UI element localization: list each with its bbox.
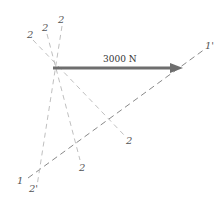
plane-2-line-b — [47, 34, 80, 160]
plane-1-end-label: 1' — [205, 41, 214, 51]
force-label: 3000 N — [103, 55, 137, 64]
plane-2-bottom-b-label: 2 — [79, 163, 85, 173]
plane-2-top-c-label: 2 — [58, 15, 64, 25]
force-arrowhead — [170, 63, 183, 73]
plane-1-start-label: 1 — [17, 176, 23, 186]
plane-2-bottom-a-label: 2' — [29, 184, 38, 194]
plane-2-bottom-c-label: 2 — [126, 136, 132, 146]
plane-2-line-c — [37, 26, 62, 186]
plane-2-top-a-label: 2 — [27, 30, 33, 40]
plane-2-top-b-label: 2 — [42, 23, 48, 33]
